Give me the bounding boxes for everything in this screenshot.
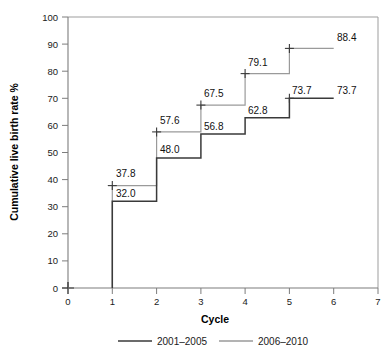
x-tick-label: 4 [242, 296, 247, 307]
data-label: 37.8 [116, 168, 136, 179]
data-label: 88.4 [337, 32, 357, 43]
x-tick-label: 7 [375, 296, 380, 307]
y-tick-label: 50 [47, 147, 58, 158]
y-tick-labels: 100 90 80 70 60 50 40 30 20 10 0 [42, 12, 58, 294]
data-label: 57.6 [160, 115, 180, 126]
y-tick-label: 10 [47, 255, 58, 266]
data-label: 73.7 [292, 85, 312, 96]
data-labels-2001-2005: 32.0 48.0 56.8 62.8 73.7 73.7 [116, 85, 357, 199]
data-label: 79.1 [248, 57, 268, 68]
legend-label-2001-2005: 2001–2005 [157, 336, 207, 347]
y-tick-label: 60 [47, 120, 58, 131]
y-tick-label: 30 [47, 201, 58, 212]
legend-label-2006-2010: 2006–2010 [258, 336, 308, 347]
y-tick-label: 100 [42, 12, 58, 23]
data-label: 73.7 [337, 85, 357, 96]
chart-legend: 2001–2005 2006–2010 [118, 336, 308, 347]
data-label: 48.0 [160, 144, 180, 155]
x-tick-label: 1 [110, 296, 115, 307]
y-axis [62, 17, 74, 294]
x-tick-label: 5 [287, 296, 292, 307]
y-tick-label: 90 [47, 39, 58, 50]
y-axis-title: Cumulative live birth rate % [8, 82, 20, 220]
y-tick-label: 40 [47, 174, 58, 185]
data-label: 67.5 [204, 88, 224, 99]
y-tick-label: 80 [47, 66, 58, 77]
y-tick-label: 20 [47, 228, 58, 239]
y-tick-label: 0 [53, 283, 58, 294]
x-tick-label: 6 [331, 296, 336, 307]
x-axis-title: Cycle [201, 313, 229, 325]
chart-container: 100 90 80 70 60 50 40 30 20 10 0 Cumulat… [0, 0, 388, 358]
data-label: 56.8 [204, 121, 224, 132]
data-label: 62.8 [248, 105, 268, 116]
plot-frame [68, 17, 378, 288]
x-tick-labels: 0 1 2 3 4 5 6 7 [65, 296, 380, 307]
data-label: 32.0 [116, 188, 136, 199]
cumulative-live-birth-rate-step-chart: 100 90 80 70 60 50 40 30 20 10 0 Cumulat… [0, 0, 388, 358]
y-tick-label: 70 [47, 93, 58, 104]
x-tick-label: 0 [65, 296, 70, 307]
x-tick-label: 3 [198, 296, 203, 307]
x-axis [68, 288, 378, 294]
x-tick-label: 2 [154, 296, 159, 307]
